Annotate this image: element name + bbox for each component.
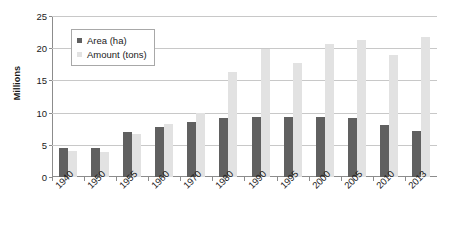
bar — [228, 72, 237, 177]
legend-item-amount: Amount (tons) — [77, 47, 147, 61]
legend-item-label: Amount (tons) — [87, 49, 147, 60]
bar — [389, 55, 398, 177]
bar — [293, 63, 302, 177]
bar-group — [309, 16, 341, 177]
x-axis-label-cell: 1995 — [277, 181, 309, 225]
y-axis-tick-label: 5 — [42, 139, 47, 150]
y-axis-tick-label: 10 — [36, 107, 47, 118]
x-axis-label-cell: 1950 — [84, 181, 116, 225]
x-axis-label-cell: 2000 — [309, 181, 341, 225]
y-axis-tick-label: 25 — [36, 11, 47, 22]
x-axis-label-cell: 1940 — [52, 181, 84, 225]
x-axis-label-cell: 1960 — [148, 181, 180, 225]
bar — [421, 37, 430, 177]
x-axis-labels: 1940195019551960197019801990199520002005… — [52, 181, 437, 225]
legend-swatch-icon — [77, 38, 82, 43]
bar — [196, 113, 205, 177]
bar — [325, 44, 334, 177]
x-axis-label-cell: 1980 — [212, 181, 244, 225]
bar-chart: Millions 0510152025 19401950195519601970… — [0, 0, 453, 225]
bar-group — [405, 16, 437, 177]
bar-group — [341, 16, 373, 177]
y-axis-tick-label: 15 — [36, 75, 47, 86]
x-axis-label-cell: 2005 — [341, 181, 373, 225]
bar-group — [244, 16, 276, 177]
bar — [261, 49, 270, 177]
y-axis-title: Millions — [12, 48, 22, 118]
y-axis-tick-label: 20 — [36, 43, 47, 54]
x-axis-label-cell: 2013 — [405, 181, 437, 225]
x-axis-label-cell: 1970 — [180, 181, 212, 225]
legend-swatch-icon — [77, 52, 82, 57]
bar-group — [180, 16, 212, 177]
bar — [357, 40, 366, 177]
legend-item-area: Area (ha) — [77, 33, 147, 47]
legend-item-label: Area (ha) — [87, 35, 127, 46]
x-axis-label-cell: 2010 — [373, 181, 405, 225]
x-axis-label-cell: 1955 — [116, 181, 148, 225]
bar-group — [373, 16, 405, 177]
chart-legend: Area (ha) Amount (tons) — [71, 29, 155, 66]
bar-group — [277, 16, 309, 177]
y-axis-tick-label: 0 — [42, 172, 47, 183]
x-axis-label-cell: 1990 — [244, 181, 276, 225]
bar-group — [212, 16, 244, 177]
